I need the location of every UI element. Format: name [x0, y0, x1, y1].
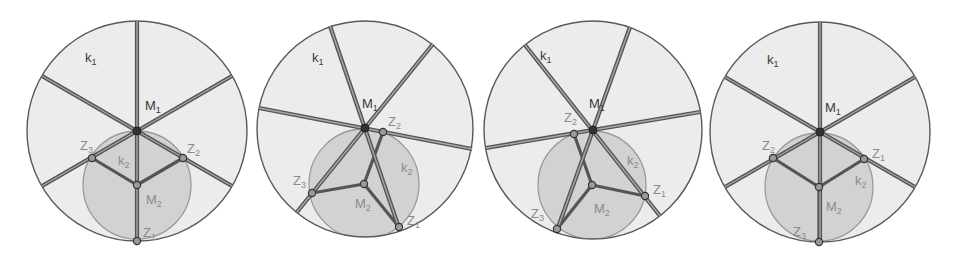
point-z1	[395, 223, 402, 230]
point-z2	[769, 154, 776, 161]
point-z3	[308, 189, 315, 196]
point-m2	[133, 181, 140, 188]
figure-3: k1k2M1M2Z1Z2Z3	[484, 21, 702, 239]
point-m1	[133, 127, 141, 135]
point-m1	[361, 124, 369, 132]
point-z3	[815, 238, 822, 245]
point-z1	[860, 155, 867, 162]
point-z3	[88, 154, 95, 161]
figure-4: k1k2M1M2Z1Z2Z3	[710, 22, 930, 246]
point-z1	[133, 237, 140, 244]
point-z1	[641, 192, 648, 199]
point-z2	[570, 130, 577, 137]
figure-2: k1k2M1M2Z1Z2Z3	[257, 21, 473, 239]
point-m2	[588, 181, 595, 188]
diagram-stage: k1k2M1M2Z1Z2Z3k1k2M1M2Z1Z2Z3k1k2M1M2Z1Z2…	[0, 0, 953, 255]
geometry-figures: k1k2M1M2Z1Z2Z3k1k2M1M2Z1Z2Z3k1k2M1M2Z1Z2…	[0, 0, 953, 255]
point-m1	[589, 126, 597, 134]
point-z3	[553, 225, 560, 232]
point-m2	[360, 180, 367, 187]
point-z2	[179, 154, 186, 161]
point-m1	[816, 128, 824, 136]
point-z2	[379, 128, 386, 135]
point-m2	[815, 183, 822, 190]
figure-1: k1k2M1M2Z1Z2Z3	[27, 21, 247, 245]
